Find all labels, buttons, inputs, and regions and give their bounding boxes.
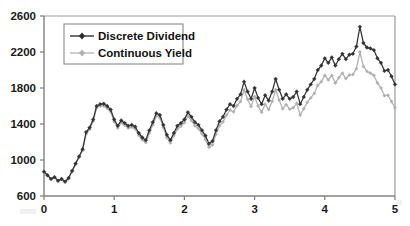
data-point [253, 95, 256, 98]
x-tick-label-4: 4 [322, 203, 329, 215]
y-axis-tick-labels: 60010001400180022002600 [10, 10, 36, 202]
data-point [393, 83, 397, 87]
y-tick-label-1000: 1000 [10, 154, 36, 166]
data-point [270, 90, 274, 94]
data-point [274, 88, 277, 91]
data-point [383, 69, 387, 73]
data-point [274, 77, 278, 81]
y-tick-label-600: 600 [17, 190, 36, 202]
x-tick-label-1: 1 [111, 203, 118, 215]
data-point [253, 86, 257, 90]
x-tick-label-0: 0 [41, 203, 47, 215]
y-tick-label-2200: 2200 [10, 46, 36, 58]
scan-artifacts [20, 200, 402, 214]
y-tick-label-1400: 1400 [10, 118, 36, 130]
series-continuous-yield [42, 50, 396, 183]
line-chart: 60010001400180022002600 012345 Discrete … [0, 0, 410, 226]
data-point [358, 25, 362, 29]
legend-label-discrete-dividend: Discrete Dividend [98, 30, 195, 42]
x-tick-label-2: 2 [181, 203, 187, 215]
chart-legend: Discrete Dividend Continuous Yield [64, 24, 195, 64]
chart-container: 60010001400180022002600 012345 Discrete … [0, 0, 410, 226]
x-tick-label-3: 3 [251, 203, 257, 215]
y-tick-label-1800: 1800 [10, 82, 36, 94]
x-axis-tick-labels: 012345 [41, 203, 399, 215]
data-point [277, 98, 280, 101]
data-point [277, 88, 281, 92]
data-point [242, 88, 245, 91]
data-point [242, 80, 246, 84]
y-tick-label-2600: 2600 [10, 10, 36, 22]
data-point [358, 50, 361, 53]
legend-label-continuous-yield: Continuous Yield [98, 47, 192, 59]
